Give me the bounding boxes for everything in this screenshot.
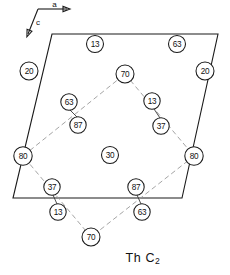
atom-height-label: 13 (91, 40, 100, 49)
atom-marker: 13 (50, 204, 66, 220)
atom-height-label: 87 (74, 121, 83, 130)
atom-height-label: 80 (190, 152, 199, 161)
atom-height-label: 20 (201, 67, 210, 76)
atom-marker: 30 (102, 147, 119, 164)
atom-height-label: 13 (54, 208, 63, 217)
atom-marker: 87 (128, 179, 144, 195)
atom-marker: 13 (87, 36, 104, 53)
atom-marker: 80 (14, 147, 32, 165)
atom-height-label: 63 (173, 40, 182, 49)
atom-marker: 13 (144, 93, 160, 109)
atom-marker: 63 (134, 204, 150, 220)
atom-height-label: 37 (48, 183, 57, 192)
crystal-structure-figure: a c 1363202070631387378030803787136370 T… (0, 0, 230, 275)
c-axis-label: c (36, 18, 40, 27)
atom-height-label: 63 (138, 208, 147, 217)
atom-marker: 87 (70, 117, 86, 133)
a-axis-label: a (52, 0, 57, 9)
axis-indicator: a c (27, 0, 70, 37)
atom-marker: 80 (185, 147, 203, 165)
c-axis-arrowhead (27, 29, 32, 36)
atom-marker: 63 (169, 36, 186, 53)
figure-caption: Th C2 (126, 251, 161, 266)
atom-height-label: 37 (157, 122, 166, 131)
atom-bond (137, 195, 141, 204)
atom-height-label: 70 (87, 233, 96, 242)
atom-height-label: 80 (19, 152, 28, 161)
atom-marker: 20 (196, 62, 214, 80)
atom-marker: 37 (44, 179, 60, 195)
atom-height-label: 20 (25, 67, 34, 76)
atom-height-label: 30 (106, 151, 115, 160)
caption-formula: Th C (126, 251, 156, 265)
atom-marker: 20 (20, 62, 38, 80)
atom-marker: 63 (61, 94, 77, 110)
caption-subscript: 2 (155, 256, 160, 266)
atom-marker: 70 (82, 228, 100, 246)
atom-height-label: 70 (121, 70, 130, 79)
unit-cell-outline (13, 34, 218, 198)
atom-bond (154, 109, 160, 118)
atom-marker: 37 (153, 118, 169, 134)
atom-marker: 70 (116, 65, 134, 83)
atom-height-label: 63 (65, 98, 74, 107)
atom-height-label: 13 (148, 97, 157, 106)
atom-height-label: 87 (132, 183, 141, 192)
